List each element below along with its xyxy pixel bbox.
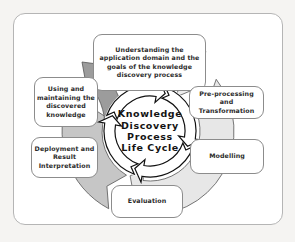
stage-label-understanding: Understanding the application domain and… (99, 46, 199, 80)
kdd-lifecycle-diagram: Understanding the application domain and… (0, 0, 295, 242)
stage-label-preprocessing: Pre-processing and Transformation (192, 90, 261, 116)
stage-box-evaluation: Evaluation (111, 185, 183, 218)
stage-label-modelling: Modelling (209, 152, 245, 161)
stage-box-understanding: Understanding the application domain and… (93, 34, 206, 91)
stage-box-using: Using and maintaining the discovered kno… (34, 77, 98, 127)
stage-box-deployment: Deployment and Result Interpretation (31, 137, 98, 178)
stage-label-evaluation: Evaluation (128, 197, 167, 206)
stage-label-using: Using and maintaining the discovered kno… (37, 85, 95, 119)
stage-label-deployment: Deployment and Result Interpretation (35, 145, 95, 171)
center-title: Knowledge Discovery Process Life Cycle (104, 102, 196, 160)
stage-box-preprocessing: Pre-processing and Transformation (189, 86, 264, 119)
stage-box-modelling: Modelling (190, 139, 264, 174)
